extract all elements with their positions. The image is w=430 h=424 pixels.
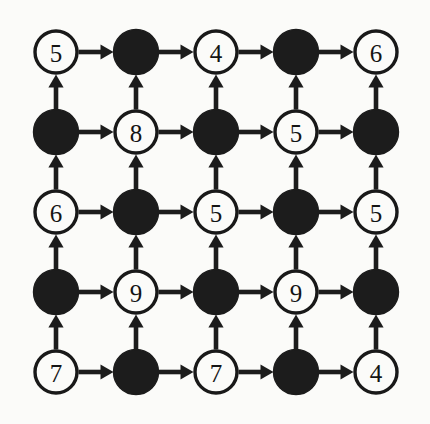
edge-right-r5-c2 (159, 364, 194, 379)
node-r4-c3[interactable] (193, 269, 238, 314)
node-label: 9 (130, 280, 143, 307)
node-r4-c5[interactable] (353, 269, 398, 314)
node-r2-c3[interactable] (193, 109, 238, 154)
node-r2-c2[interactable]: 8 (115, 111, 157, 153)
edge-up-r5-c2 (128, 315, 143, 350)
node-label: 7 (50, 360, 63, 387)
filled-node-circle (353, 109, 398, 154)
edge-right-r3-c1 (79, 204, 114, 219)
edge-up-r4-c5 (368, 235, 383, 270)
edge-right-r3-c2 (159, 204, 194, 219)
edge-right-r1-c2 (159, 44, 194, 59)
node-r2-c4[interactable]: 5 (275, 111, 317, 153)
node-r3-c4[interactable] (273, 189, 318, 234)
edge-right-r3-c4 (319, 204, 354, 219)
edge-right-r5-c3 (239, 364, 274, 379)
node-r5-c4[interactable] (273, 349, 318, 394)
edge-up-r5-c4 (288, 315, 303, 350)
edge-up-r4-c2 (128, 235, 143, 270)
filled-node-circle (193, 109, 238, 154)
edge-right-r1-c1 (79, 44, 114, 59)
node-label: 6 (50, 200, 63, 227)
edge-right-r2-c2 (159, 124, 194, 139)
node-r1-c1[interactable]: 5 (35, 31, 77, 73)
edge-right-r3-c3 (239, 204, 274, 219)
node-r5-c2[interactable] (113, 349, 158, 394)
edge-right-r2-c1 (79, 124, 114, 139)
diagram-canvas: 5468565599774 (0, 0, 430, 424)
filled-node-circle (273, 29, 318, 74)
edge-right-r2-c4 (319, 124, 354, 139)
edge-right-r5-c1 (79, 364, 114, 379)
node-label: 4 (210, 40, 223, 67)
edge-right-r4-c1 (79, 284, 114, 299)
edge-up-r4-c4 (288, 235, 303, 270)
node-r1-c4[interactable] (273, 29, 318, 74)
edge-up-r2-c1 (48, 75, 63, 110)
node-label: 8 (130, 120, 143, 147)
node-r4-c4[interactable]: 9 (275, 271, 317, 313)
node-r1-c5[interactable]: 6 (355, 31, 397, 73)
filled-node-circle (353, 269, 398, 314)
node-r2-c5[interactable] (353, 109, 398, 154)
edge-up-r4-c1 (48, 235, 63, 270)
filled-node-circle (113, 349, 158, 394)
filled-node-circle (273, 189, 318, 234)
node-r1-c3[interactable]: 4 (195, 31, 237, 73)
grid-graph: 5468565599774 (0, 0, 430, 424)
node-label: 7 (210, 360, 223, 387)
node-r3-c1[interactable]: 6 (35, 191, 77, 233)
edge-right-r1-c3 (239, 44, 274, 59)
edge-right-r4-c3 (239, 284, 274, 299)
node-label: 5 (50, 40, 63, 67)
filled-node-circle (193, 269, 238, 314)
filled-node-circle (113, 189, 158, 234)
edge-right-r4-c2 (159, 284, 194, 299)
edge-up-r3-c1 (48, 155, 63, 190)
node-r3-c5[interactable]: 5 (355, 191, 397, 233)
edge-right-r1-c4 (319, 44, 354, 59)
node-label: 4 (370, 360, 383, 387)
filled-node-circle (113, 29, 158, 74)
node-r4-c1[interactable] (33, 269, 78, 314)
node-r4-c2[interactable]: 9 (115, 271, 157, 313)
edge-right-r4-c4 (319, 284, 354, 299)
edge-up-r2-c4 (288, 75, 303, 110)
edge-up-r3-c3 (208, 155, 223, 190)
node-r3-c2[interactable] (113, 189, 158, 234)
edge-up-r5-c1 (48, 315, 63, 350)
node-r2-c1[interactable] (33, 109, 78, 154)
edge-up-r3-c2 (128, 155, 143, 190)
edge-up-r5-c5 (368, 315, 383, 350)
filled-node-circle (33, 109, 78, 154)
edge-up-r2-c5 (368, 75, 383, 110)
edge-right-r2-c3 (239, 124, 274, 139)
node-label: 5 (290, 120, 303, 147)
node-r5-c5[interactable]: 4 (355, 351, 397, 393)
edge-up-r2-c3 (208, 75, 223, 110)
edge-up-r5-c3 (208, 315, 223, 350)
edge-up-r3-c5 (368, 155, 383, 190)
edge-up-r3-c4 (288, 155, 303, 190)
filled-node-circle (273, 349, 318, 394)
filled-node-circle (33, 269, 78, 314)
node-r3-c3[interactable]: 5 (195, 191, 237, 233)
node-label: 9 (290, 280, 303, 307)
node-label: 6 (370, 40, 383, 67)
node-r5-c3[interactable]: 7 (195, 351, 237, 393)
node-label: 5 (370, 200, 383, 227)
edge-up-r2-c2 (128, 75, 143, 110)
node-r5-c1[interactable]: 7 (35, 351, 77, 393)
node-label: 5 (210, 200, 223, 227)
node-r1-c2[interactable] (113, 29, 158, 74)
edge-right-r5-c4 (319, 364, 354, 379)
edge-up-r4-c3 (208, 235, 223, 270)
